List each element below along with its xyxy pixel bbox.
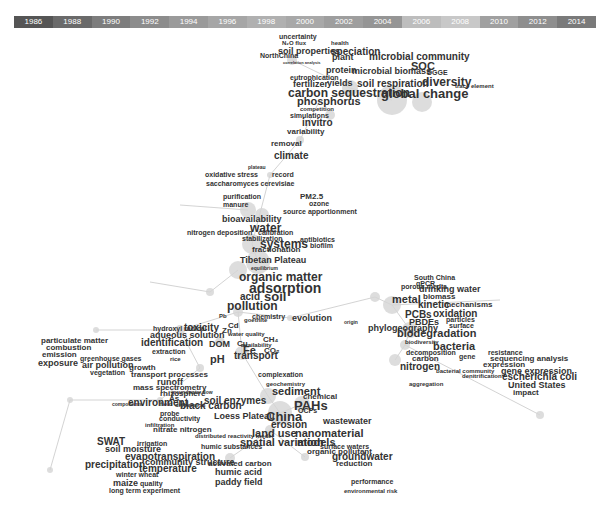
- keyword-label: climate: [274, 151, 308, 161]
- keyword-label: toxicity: [184, 323, 219, 333]
- keyword-label: ozone: [309, 200, 329, 207]
- keyword-label: impact: [513, 389, 539, 397]
- network-node: [67, 397, 73, 403]
- keyword-label: reduction: [336, 460, 372, 468]
- keyword-label: NorthChina: [260, 52, 298, 59]
- keyword-label: water quality: [228, 331, 265, 337]
- keyword-label: complexation: [258, 371, 303, 378]
- keyword-label: Fe: [243, 345, 256, 356]
- keyword-label: CO₂: [264, 347, 280, 355]
- keyword-label: microbial biomass: [352, 67, 431, 76]
- keyword-label: biofilm: [310, 242, 333, 249]
- keyword-label: humic substances: [201, 443, 262, 450]
- network-node: [93, 327, 99, 333]
- keyword-label: field: [160, 401, 172, 407]
- network-node: [206, 288, 214, 296]
- keyword-label: paddy field: [215, 478, 263, 487]
- keyword-label: denitrification: [462, 373, 502, 379]
- keyword-label: fractionation: [252, 246, 300, 254]
- keyword-label: record: [272, 171, 294, 178]
- keyword-label: evolution: [292, 314, 332, 323]
- keyword-label: nitrogen: [400, 362, 440, 372]
- keyword-label: environmental risk: [344, 488, 397, 494]
- keyword-label: identification: [141, 338, 203, 348]
- keyword-label: removal: [271, 140, 302, 148]
- keyword-label: pH: [210, 354, 225, 365]
- keyword-label: rice: [170, 356, 181, 362]
- keyword-label: black carbon: [180, 401, 242, 411]
- keyword-label: global change: [381, 87, 468, 100]
- keyword-label: humic acid: [215, 468, 262, 477]
- keyword-label: Tibetan Plateau: [240, 256, 306, 265]
- keyword-label: quality: [140, 480, 163, 487]
- network-node: [536, 411, 544, 419]
- keyword-label: vegetation: [90, 369, 125, 376]
- keyword-label: manure: [223, 201, 248, 208]
- keyword-label: chemistry: [252, 313, 285, 320]
- keyword-label: DOM: [209, 340, 230, 349]
- keyword-label: metal: [392, 294, 421, 305]
- keyword-label: extraction: [152, 348, 185, 355]
- network-edge: [50, 400, 70, 470]
- keyword-label: plateau: [248, 165, 266, 170]
- keyword-label: performance: [351, 478, 393, 485]
- keyword-label: exposure: [38, 359, 78, 368]
- keyword-label: pollution: [227, 300, 278, 312]
- keyword-label: aggregation: [409, 381, 443, 387]
- keyword-label: gene: [459, 353, 475, 360]
- keyword-label: long term experiment: [109, 487, 180, 494]
- keyword-label: source apportionment: [283, 208, 357, 215]
- keyword-label: winter wheat: [116, 471, 158, 478]
- keyword-label: biodegradation: [397, 328, 476, 339]
- keyword-label: purification: [223, 193, 261, 200]
- keyword-label: oxidative stress: [205, 171, 258, 178]
- network-edge: [150, 282, 210, 292]
- keyword-label: Pb: [219, 313, 227, 319]
- keyword-label: conductivity: [159, 415, 200, 422]
- keyword-label: components: [112, 402, 142, 407]
- keyword-label: origin: [344, 320, 358, 325]
- keyword-label: saccharomyces cerevisiae: [206, 180, 294, 187]
- keyword-label: variability: [287, 128, 324, 136]
- keyword-label: plant: [332, 53, 354, 62]
- keyword-label: CH₄: [263, 336, 278, 344]
- network-node: [370, 292, 380, 302]
- keyword-label: precipitation: [85, 460, 145, 470]
- keyword-label: uncertainty: [279, 33, 317, 40]
- keyword-label: correlation analysis: [283, 61, 321, 65]
- keyword-label: wastewater: [323, 417, 372, 426]
- network-node: [47, 467, 53, 473]
